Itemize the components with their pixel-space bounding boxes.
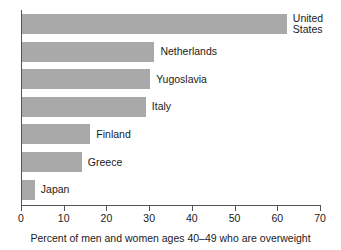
x-axis-tick	[192, 205, 193, 211]
x-axis-tick-label: 60	[271, 212, 283, 225]
bar	[22, 14, 287, 34]
bar	[22, 42, 154, 62]
x-axis-tick	[21, 205, 22, 211]
bar-row: Greece	[22, 152, 122, 172]
bar-label: Japan	[41, 184, 70, 195]
bar-label: Greece	[88, 157, 122, 168]
bar-label: Finland	[96, 129, 130, 140]
x-axis-tick	[106, 205, 107, 211]
bar-series: United StatesNetherlandsYugoslaviaItalyF…	[22, 10, 321, 205]
x-axis-tick-label: 0	[18, 212, 24, 225]
bar-label: Netherlands	[160, 46, 217, 57]
chart-caption: Percent of men and women ages 40–49 who …	[0, 232, 341, 245]
bar-label: United States	[293, 13, 323, 35]
x-axis-tick-label: 10	[58, 212, 70, 225]
bar-row: United States	[22, 14, 323, 34]
x-axis-tick-label: 30	[143, 212, 155, 225]
bar	[22, 152, 82, 172]
bar-row: Yugoslavia	[22, 69, 207, 89]
x-axis-tick	[235, 205, 236, 211]
x-axis-tick	[320, 205, 321, 211]
plot-area: United StatesNetherlandsYugoslaviaItalyF…	[21, 10, 321, 205]
bar-row: Finland	[22, 124, 131, 144]
bar	[22, 180, 35, 200]
bar	[22, 69, 150, 89]
x-axis-tick-label: 20	[101, 212, 113, 225]
x-axis-tick	[64, 205, 65, 211]
bar-row: Netherlands	[22, 42, 217, 62]
bar-label: Yugoslavia	[156, 74, 207, 85]
bar-row: Italy	[22, 97, 171, 117]
bar-row: Japan	[22, 180, 69, 200]
x-axis-tick-label: 50	[229, 212, 241, 225]
x-axis-tick	[277, 205, 278, 211]
bar-chart: United StatesNetherlandsYugoslaviaItalyF…	[0, 0, 341, 250]
x-axis-tick-label: 40	[186, 212, 198, 225]
x-axis-tick	[149, 205, 150, 211]
bar	[22, 124, 90, 144]
bar	[22, 97, 146, 117]
bar-label: Italy	[152, 101, 171, 112]
x-axis-tick-label: 70	[314, 212, 326, 225]
x-axis-ticks	[21, 205, 321, 212]
x-axis-tick-labels: 010203040506070	[21, 212, 321, 226]
